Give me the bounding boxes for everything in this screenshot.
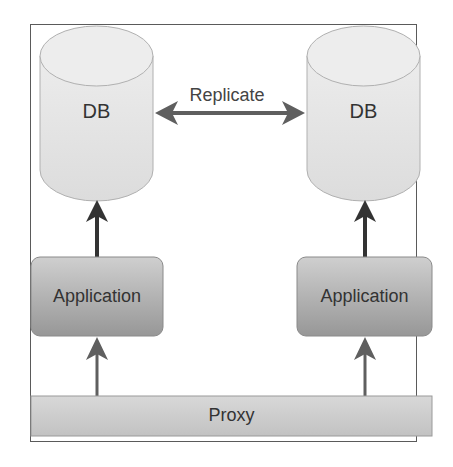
proxy-to-app-left-arrow [86, 337, 108, 396]
app-left-to-db-arrow [86, 200, 108, 257]
proxy-to-app-right-arrow [354, 337, 376, 396]
db-left-label: DB [40, 100, 153, 123]
proxy-label: Proxy [31, 405, 432, 426]
app-right-to-db-arrow [354, 200, 376, 257]
app-right-label: Application [297, 286, 432, 307]
diagram-canvas [0, 0, 453, 467]
db-right-label: DB [307, 100, 420, 123]
app-left-label: Application [31, 286, 163, 307]
replicate-label: Replicate [167, 85, 287, 106]
